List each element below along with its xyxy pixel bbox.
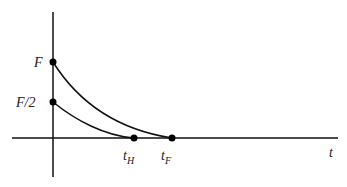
decay-diagram: F F/2 tH tF t [0, 0, 347, 187]
point-F-half [50, 99, 57, 106]
label-F: F [33, 55, 43, 70]
label-tH: tH [123, 148, 135, 166]
point-F [50, 59, 57, 66]
point-tF [169, 135, 176, 142]
label-tF-sub: F [164, 155, 172, 166]
curve-full [53, 62, 172, 138]
label-F-half: F/2 [15, 95, 35, 110]
label-tH-sub: H [126, 155, 135, 166]
x-axis-label: t [329, 145, 334, 160]
point-tH [131, 135, 138, 142]
label-tF: tF [161, 148, 172, 166]
